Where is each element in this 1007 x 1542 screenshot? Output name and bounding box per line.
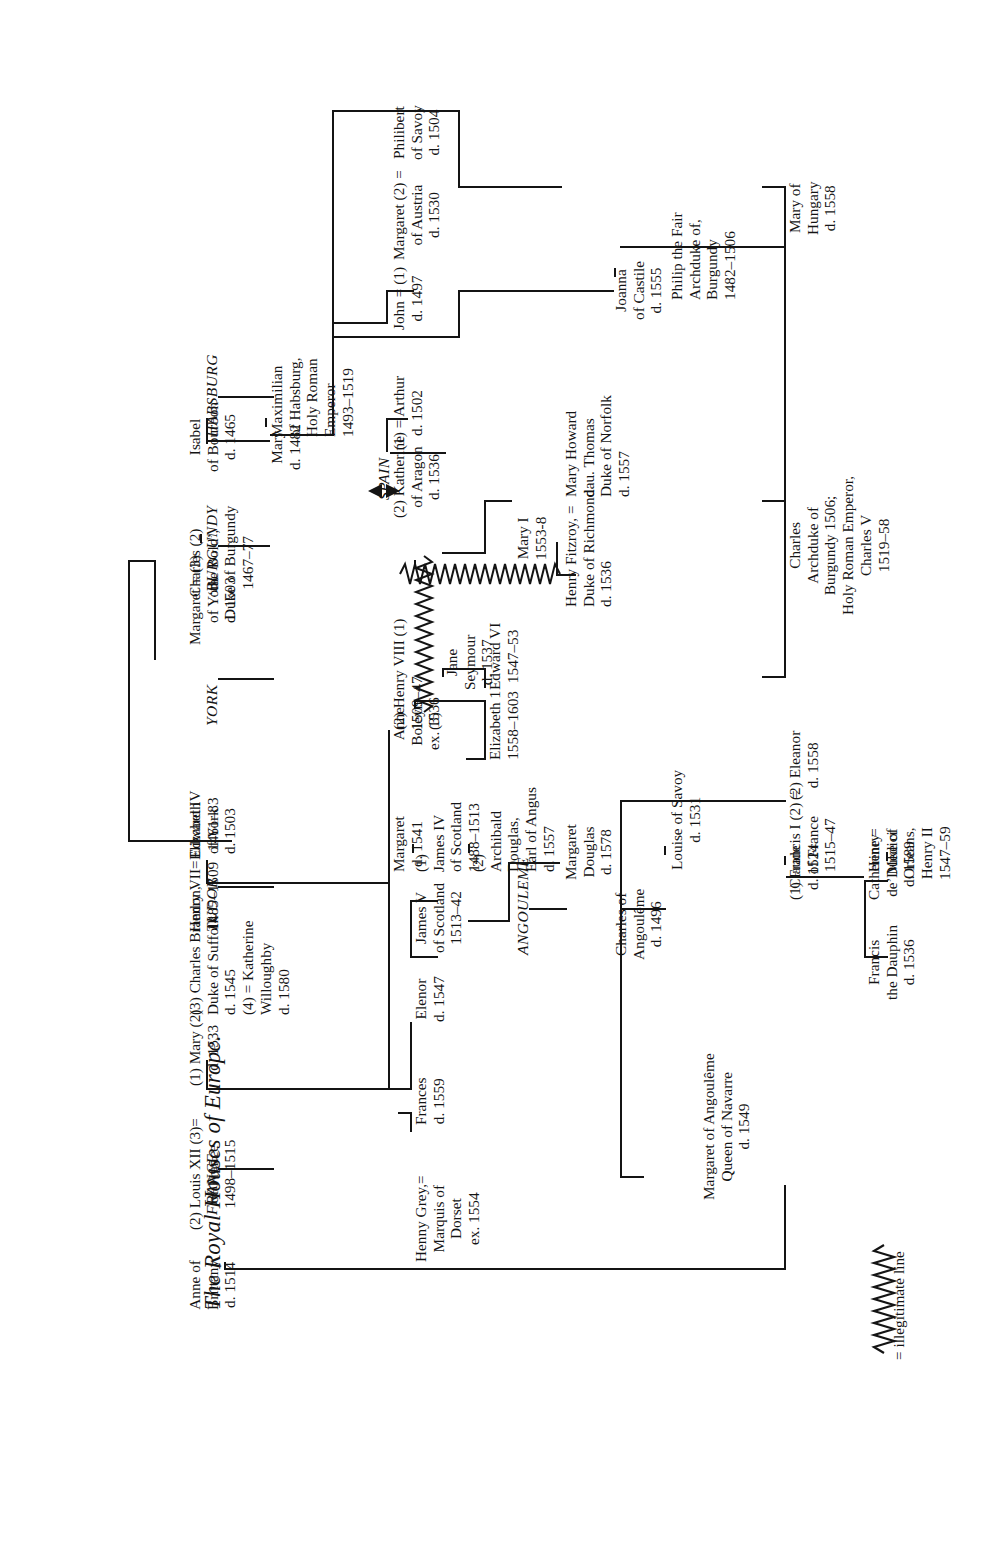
connector-dauphin bbox=[864, 956, 888, 958]
person-elenor: Elenor d. 1547 bbox=[412, 976, 447, 1022]
connector-eleanor-h bbox=[762, 676, 786, 678]
connector-archibald-stub bbox=[468, 920, 510, 922]
person-louise-of-savoy: Louise of Savoy d. 1531 bbox=[668, 770, 703, 870]
person-john-of-spain: John = (1) d. 1497 bbox=[390, 267, 425, 330]
connector-fitzroy-v bbox=[556, 542, 558, 576]
person-henry-ii: Henry Duke of Orleans, Henry II 1547–59 bbox=[865, 826, 954, 880]
connector-louis-xii-to-descendants bbox=[224, 1268, 785, 1270]
connector-mary-brandon-bar bbox=[206, 1060, 208, 1090]
connector-frances-h bbox=[398, 1112, 412, 1114]
person-arthur: (1) = Arthur d. 1502 bbox=[390, 376, 425, 450]
connector-elizabeth-h bbox=[466, 758, 486, 760]
house-stub-habsburg bbox=[218, 396, 274, 398]
connector-fitzroy-stub bbox=[556, 574, 576, 576]
person-claude: Claude d. 1524 bbox=[786, 844, 821, 890]
connector-spain-johngrp bbox=[386, 290, 388, 324]
connector-arthur-stub bbox=[386, 418, 388, 452]
connector-charlesv-h bbox=[762, 500, 786, 502]
person-edward-iv: Edward IV 1461–83 bbox=[186, 790, 221, 858]
marriage-tick-margaret-jamesiv bbox=[412, 844, 414, 853]
connector-angouleme-spine bbox=[620, 908, 666, 910]
connector-archibald-to-margaretdouglas bbox=[508, 862, 510, 920]
person-margaret-douglas: Margaret Douglas d. 1578 bbox=[562, 824, 615, 880]
connector-jamesiv-stub bbox=[410, 900, 438, 902]
connector-jane-to-edwardvi bbox=[442, 668, 486, 670]
person-philibert-of-savoy: Philibert of Savoy d. 1504 bbox=[390, 105, 443, 160]
connector-katherine-stub bbox=[442, 552, 486, 554]
person-mary-i: Mary I 1553-8 bbox=[514, 517, 549, 560]
connector-margaret-austria-v bbox=[458, 110, 460, 186]
person-maximilian: Maximilian of Habsburg, Holy Roman Emper… bbox=[268, 357, 357, 437]
person-frances: Frances d. 1559 bbox=[412, 1077, 447, 1125]
connector-maryi bbox=[484, 500, 512, 502]
connector-maryhungary-h bbox=[762, 186, 786, 188]
marriage-tick-mary-maximilian bbox=[265, 418, 267, 427]
connector-tudor-children-spine bbox=[388, 730, 390, 1088]
connector-arthur-h bbox=[386, 418, 408, 420]
connector-jamesiv-to-jamesv bbox=[410, 900, 412, 956]
person-anne-boleyn: Anne Boleyn ex. 1536 bbox=[390, 697, 443, 750]
arrow-spain-right bbox=[378, 480, 408, 502]
connector-jamesv bbox=[410, 956, 438, 958]
marriage-tick-joanna-philip bbox=[614, 268, 616, 277]
house-stub-angouleme bbox=[529, 908, 567, 910]
person-mary-tudor: (1) Mary (2) d. 1533 bbox=[186, 1010, 221, 1086]
connector-claude-down bbox=[786, 876, 864, 878]
connector-edwardiv-spine bbox=[128, 560, 130, 842]
marriage-tick-francis-claude bbox=[784, 856, 786, 865]
connector-margaret-douglas-h bbox=[508, 862, 560, 864]
connector-max-down bbox=[270, 434, 334, 436]
marriage-tick-charles-louise bbox=[664, 846, 666, 855]
connector-philibert bbox=[458, 186, 562, 188]
genealogy-chart-sheet: The Royal Houses of Europe. FRANCE TUDOR… bbox=[0, 0, 1007, 1542]
person-charles-v: Charles Archduke of Burgundy 1506; Holy … bbox=[786, 476, 892, 615]
person-margaret-of-navarre: Margaret of Angoulême Queen of Navarre d… bbox=[700, 1053, 753, 1200]
connector-louise-v bbox=[620, 800, 622, 910]
person-philip-the-fair: Philip the Fair Archduke of, Burgundy 14… bbox=[668, 212, 739, 300]
connector-mary-brandon-down bbox=[206, 1088, 412, 1090]
house-label-york: YORK bbox=[203, 685, 221, 726]
connector-margaret-navarre-h bbox=[620, 1176, 644, 1178]
connector-louise-to-francis bbox=[620, 800, 786, 802]
connector-maryhungary-v bbox=[784, 186, 786, 248]
connector-spain-john bbox=[332, 322, 388, 324]
person-louis-xii: (2) Louis XII (3)= of France 1498–1515 bbox=[186, 1118, 239, 1230]
connector-joanna-philip bbox=[458, 290, 614, 292]
marriage-tick-margaret-archibald bbox=[468, 844, 470, 853]
connector-joanna-philip-children bbox=[784, 246, 786, 676]
person-elizabeth-i: Elizabeth 1 1558–1603 bbox=[486, 691, 521, 760]
connector-joanna-v bbox=[458, 290, 460, 338]
person-henry-vii: Henry VII= 1485–1509 bbox=[186, 860, 221, 932]
person-henry-grey: Henny Grey,= Marquis of Dorset ex. 1554 bbox=[412, 1175, 483, 1262]
connector-charles-to-mary bbox=[206, 440, 270, 442]
connector-francis-children bbox=[864, 880, 866, 956]
connector-edwardiv-down bbox=[128, 840, 232, 842]
person-mary-of-hungary: Mary of Hungary d. 1558 bbox=[786, 181, 839, 235]
connector-anne-to-elizabeth bbox=[414, 700, 486, 702]
connector-habsburg-joanna bbox=[332, 336, 460, 338]
connector-katherine-to-maryi bbox=[484, 500, 486, 552]
connector-henryvii-children bbox=[206, 882, 390, 884]
marriage-tick-catherine-henryii bbox=[886, 852, 888, 861]
connector-edwardvi-stub bbox=[484, 668, 486, 688]
connector-philip-down bbox=[620, 246, 786, 248]
connector-brandon-children bbox=[410, 1022, 412, 1090]
person-margaret-of-austria: Margaret (2) = of Austria d. 1530 bbox=[390, 170, 443, 260]
connector-elizabeth-stub bbox=[484, 700, 486, 758]
person-isabel-of-bourbon: Isabel of Bourbon d. 1465 bbox=[186, 402, 239, 472]
marriage-tick-margaret-charles bbox=[200, 534, 202, 543]
person-francis-the-dauphin: Francis the Dauphin d. 1536 bbox=[865, 925, 918, 1000]
connector-angouleme-spine-v bbox=[620, 908, 622, 1176]
person-joanna-of-castile: Joanna of Castile d. 1555 bbox=[612, 261, 665, 320]
connector-spain-joanna bbox=[386, 290, 414, 292]
connector-york-branch bbox=[154, 560, 156, 660]
legend-label: = illegitimate line bbox=[890, 1251, 908, 1360]
connector-max-children-spine bbox=[332, 110, 334, 435]
connector-henryii bbox=[864, 880, 888, 882]
connector-to-margaret-navarre bbox=[784, 1185, 786, 1270]
connector-frances-stub bbox=[410, 1112, 412, 1132]
person-james-v: James V of Scotland 1513–42 bbox=[412, 883, 465, 953]
person-edward-vi: Edward VI 1547–53 bbox=[486, 623, 521, 690]
person-mary-howard: Mary Howard dau. Thomas Duke of Norfolk … bbox=[562, 395, 633, 497]
connector-henryvii-elizabeth bbox=[206, 860, 208, 884]
